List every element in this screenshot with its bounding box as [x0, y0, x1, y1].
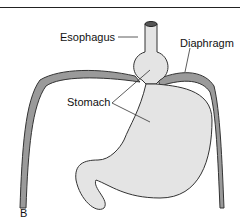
label-stomach: Stomach [67, 96, 110, 108]
hiatal-hernia-diagram [0, 0, 240, 223]
label-esophagus: Esophagus [60, 31, 115, 43]
panel-label: B [20, 207, 27, 219]
label-diaphragm: Diaphragm [180, 37, 234, 49]
esophagus [134, 24, 168, 84]
